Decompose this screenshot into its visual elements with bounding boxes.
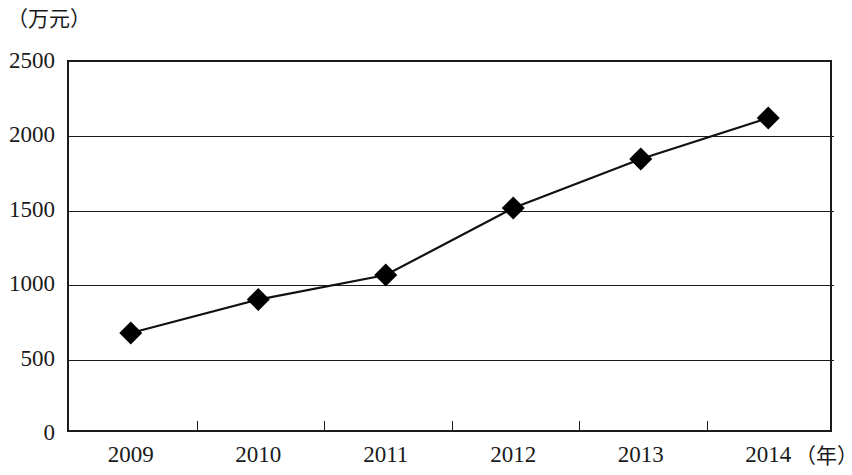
- gridline: [69, 136, 834, 137]
- y-axis-tick-label: 1500: [0, 198, 55, 221]
- x-axis-tick-label: 2013: [596, 443, 686, 466]
- y-axis-unit-label: （万元）: [7, 6, 91, 32]
- x-axis-tick-label: 2010: [213, 443, 303, 466]
- x-axis-tick-label: 2014: [723, 443, 813, 466]
- gridline: [69, 285, 834, 286]
- x-axis-tick: [579, 421, 580, 430]
- y-axis-tick-label: 500: [0, 347, 55, 370]
- y-axis-tick-label: 2500: [0, 49, 55, 72]
- x-axis-tick: [452, 421, 453, 430]
- x-axis-tick: [197, 421, 198, 430]
- line-chart-figure: （万元） （年） 05001000150020002500 2009201020…: [0, 0, 852, 475]
- y-axis-tick-label: 1000: [0, 272, 55, 295]
- plot-area: [67, 60, 832, 432]
- gridline: [69, 211, 834, 212]
- x-axis-tick: [707, 421, 708, 430]
- gridline: [69, 360, 834, 361]
- x-axis-tick: [324, 421, 325, 430]
- y-axis-tick-label: 2000: [0, 123, 55, 146]
- x-axis-tick-label: 2012: [468, 443, 558, 466]
- x-axis-tick-label: 2009: [86, 443, 176, 466]
- x-axis-tick-label: 2011: [341, 443, 431, 466]
- y-axis-tick-label: 0: [0, 421, 55, 444]
